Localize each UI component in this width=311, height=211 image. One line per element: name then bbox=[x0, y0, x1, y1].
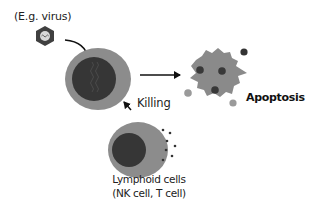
killing-label: Killing bbox=[137, 96, 171, 110]
virus-label: (E.g. virus) bbox=[14, 10, 71, 23]
infected-cell bbox=[65, 48, 131, 110]
apoptotic-cell bbox=[184, 48, 247, 107]
hexagon-virus-icon bbox=[36, 26, 54, 46]
killing-arrow bbox=[124, 102, 131, 110]
lymphoid-label-line2: (NK cell, T cell) bbox=[100, 186, 198, 200]
apoptosis-label: Apoptosis bbox=[246, 91, 305, 104]
lymphoid-label-line1: Lymphoid cells bbox=[100, 172, 198, 186]
lymphoid-cells-label: Lymphoid cells (NK cell, T cell) bbox=[100, 172, 198, 200]
lymphoid-cell bbox=[108, 122, 176, 178]
